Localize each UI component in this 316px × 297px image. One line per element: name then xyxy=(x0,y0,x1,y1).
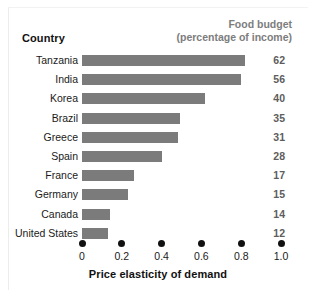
x-axis-tick-label: 0.6 xyxy=(194,250,209,262)
x-axis-tick-label: 0.2 xyxy=(114,250,129,262)
x-axis-tick-label: 1.0 xyxy=(274,250,289,262)
x-axis-tick-marker xyxy=(79,240,86,247)
x-axis-tick-marker xyxy=(158,240,165,247)
chart-figure: Country Food budget (percentage of incom… xyxy=(0,0,316,297)
x-axis-tick-marker xyxy=(198,240,205,247)
x-axis-tick-marker xyxy=(278,240,285,247)
x-axis-tick-marker xyxy=(238,240,245,247)
x-axis-tick-label: 0 xyxy=(79,250,85,262)
x-axis-tick-label: 0.4 xyxy=(154,250,169,262)
x-axis-title: Price elasticity of demand xyxy=(0,268,316,280)
x-axis-tick-marker xyxy=(118,240,125,247)
x-axis: 00.20.40.60.81.0 xyxy=(0,0,316,297)
x-axis-tick-label: 0.8 xyxy=(234,250,249,262)
